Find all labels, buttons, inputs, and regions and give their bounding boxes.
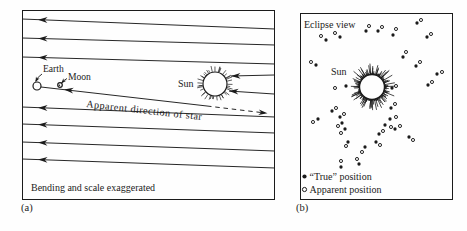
sun-corona-ray — [209, 70, 210, 72]
legend-true-label: “True” position — [310, 171, 372, 182]
light-ray — [22, 142, 275, 151]
star-apparent-dot — [394, 115, 397, 118]
star-apparent-dot — [380, 25, 383, 28]
star-true-dot — [389, 106, 392, 109]
star-apparent-dot — [394, 84, 397, 87]
star-apparent-dot — [393, 102, 396, 105]
moon-label: Moon — [68, 71, 91, 82]
eclipse-view-title: Eclipse view — [304, 19, 356, 30]
star-apparent-dot — [367, 24, 370, 27]
star-true-dot — [339, 165, 342, 168]
star-true-dot — [376, 29, 379, 32]
star-apparent-dot — [339, 131, 342, 134]
moon-shading-dot — [59, 84, 61, 86]
sun-b — [351, 64, 396, 111]
sun-corona-ray — [219, 96, 221, 100]
star-apparent-dot — [394, 27, 397, 30]
sun-corona-ray — [217, 96, 218, 100]
star-apparent-dot — [411, 138, 414, 141]
sun-corona-ray — [207, 70, 209, 73]
figure: Sun Earth Moon Apparent direction of sta… — [0, 0, 467, 231]
sun-corona-ray — [198, 79, 203, 81]
star-apparent-dot — [398, 124, 401, 127]
star-true-dot — [338, 115, 341, 118]
sun-disc — [360, 75, 385, 100]
sun-corona-ray — [202, 92, 205, 95]
star-apparent-dot — [418, 60, 421, 63]
sun-corona-ray — [211, 66, 212, 72]
star-apparent-dot — [342, 112, 345, 115]
sun-label-b: Sun — [331, 66, 347, 77]
sun-corona-ray — [200, 89, 203, 90]
star-true-dot — [391, 33, 394, 36]
star-apparent-dot — [419, 18, 422, 21]
star-true-dot — [316, 117, 319, 120]
sun-a — [197, 66, 232, 100]
star-true-dot — [415, 21, 418, 24]
star-true-dot — [314, 63, 317, 66]
star-true-dot — [393, 127, 396, 130]
legend-apparent-marker-icon — [302, 187, 306, 191]
light-ray — [22, 124, 275, 133]
star-apparent-dot — [429, 32, 432, 35]
star-apparent-dot — [309, 60, 312, 63]
star-true-dot — [425, 35, 428, 38]
star-true-dot — [414, 64, 417, 67]
sun-corona-ray — [209, 96, 211, 100]
sun-corona-ray — [205, 72, 207, 74]
star-apparent-dot — [430, 80, 433, 83]
star-true-dot — [401, 55, 404, 58]
apparent-direction-label: Apparent direction of star — [86, 98, 203, 122]
star-true-dot — [344, 84, 347, 87]
star-true-dot — [357, 162, 360, 165]
light-ray — [22, 38, 275, 45]
star-true-dot — [383, 123, 386, 126]
sun-corona-ray — [204, 74, 206, 76]
star-true-dot — [330, 109, 333, 112]
panel-a-figure: Sun Earth Moon Apparent direction of sta… — [22, 10, 275, 200]
star-apparent-dot — [389, 125, 392, 128]
bending-note: Bending and scale exaggerated — [31, 182, 155, 193]
star-true-dot — [390, 86, 393, 89]
panel-a-caption: (a) — [21, 202, 33, 213]
sun-label-a: Sun — [178, 78, 194, 89]
star-true-dot — [363, 145, 366, 148]
sight-line-dashed — [207, 106, 265, 113]
panel-b-caption: (b) — [296, 202, 308, 213]
star-true-dot — [346, 140, 349, 143]
star-true-dot — [324, 38, 327, 41]
light-ray — [22, 159, 275, 168]
star-true-dot — [338, 35, 341, 38]
star-apparent-dot — [381, 129, 384, 132]
sun-corona-ray — [200, 76, 204, 78]
star-apparent-dot — [336, 124, 339, 127]
earth-label: Earth — [43, 63, 64, 74]
sun-corona-ray — [227, 89, 231, 91]
star-apparent-dot — [333, 86, 336, 89]
star-apparent-dot — [378, 143, 381, 146]
legend: “True” position Apparent position — [302, 171, 381, 195]
star-true-dot — [340, 121, 343, 124]
sun-corona-ray — [205, 94, 208, 99]
sun-corona-ray — [197, 87, 203, 88]
light-ray — [22, 19, 275, 29]
star-true-dot — [377, 132, 380, 135]
star-apparent-dot — [355, 157, 358, 160]
star-true-dot — [343, 127, 346, 130]
star-true-dot — [435, 72, 438, 75]
star-apparent-dot — [344, 144, 347, 147]
sun-corona-ray — [224, 74, 226, 76]
sun-corona-ray — [227, 80, 232, 81]
legend-apparent-label: Apparent position — [310, 184, 382, 195]
sun-disc — [203, 72, 227, 96]
star-true-dot — [374, 140, 377, 143]
star-apparent-dot — [440, 70, 443, 73]
star-true-dot — [426, 83, 429, 86]
star-true-dot — [388, 117, 391, 120]
star-apparent-dot — [360, 150, 363, 153]
sun-corona-ray — [223, 70, 226, 74]
star-apparent-dot — [311, 120, 314, 123]
sun-grazing-rays-group — [229, 73, 274, 95]
sun-corona-ray — [225, 92, 229, 95]
star-apparent-dot — [333, 31, 336, 34]
